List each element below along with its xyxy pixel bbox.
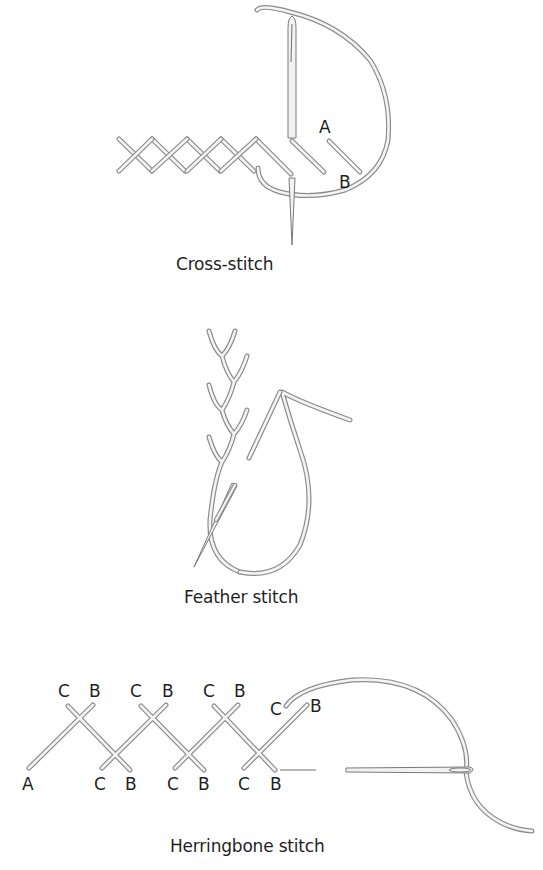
svg-text:B: B [89, 681, 101, 701]
svg-text:B: B [198, 774, 210, 794]
svg-text:C: C [94, 774, 106, 794]
svg-text:C: C [203, 681, 215, 701]
herringbone-stitch-diagram: C B C B C B C B A C B C B C B [0, 0, 543, 870]
svg-text:A: A [22, 774, 34, 794]
herringbone-top-labels: C B C B C B C B [58, 681, 322, 719]
svg-text:C: C [58, 681, 70, 701]
herringbone-stitches-icon [29, 705, 307, 770]
svg-text:C: C [238, 774, 250, 794]
svg-text:B: B [270, 774, 282, 794]
svg-text:B: B [234, 681, 246, 701]
svg-text:C: C [270, 699, 282, 719]
svg-text:B: B [125, 774, 137, 794]
herringbone-thread-icon [286, 680, 532, 831]
needle-icon [280, 767, 473, 773]
svg-text:C: C [130, 681, 142, 701]
svg-text:B: B [162, 681, 174, 701]
herringbone-bottom-labels: A C B C B C B [22, 774, 282, 794]
herringbone-stitch-figure: C B C B C B C B A C B C B C B Herringbon… [0, 0, 543, 870]
svg-text:B: B [310, 696, 322, 716]
svg-text:C: C [167, 774, 179, 794]
herringbone-stitch-caption: Herringbone stitch [170, 836, 324, 856]
